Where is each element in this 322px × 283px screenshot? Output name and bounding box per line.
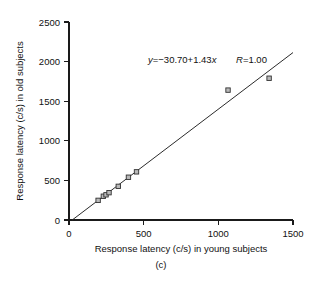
x-axis-group: 0 500 1000 1500 Response latency (c/s) i… [66, 220, 303, 254]
data-point-marker [96, 198, 100, 202]
y-axis-group: 0 500 1000 1500 2000 2500 Response laten… [14, 17, 69, 226]
y-tick-label-1500: 1500 [39, 96, 60, 107]
x-axis-title: Response latency (c/s) in young subjects [95, 243, 268, 254]
y-tick-label-500: 500 [44, 175, 60, 186]
x-tick-label-0: 0 [66, 228, 71, 239]
correlation-value: =1.00 [243, 54, 267, 65]
data-point-marker [126, 175, 130, 179]
regression-equation-annotation: y=−30.70+1.43x [147, 54, 218, 65]
scatter-plot-figure: 0 500 1000 1500 2000 2500 Response laten… [0, 0, 322, 283]
data-point-marker [226, 88, 230, 92]
x-tick-label-1500: 1500 [282, 228, 303, 239]
data-point-marker [267, 76, 271, 80]
plot-canvas: 0 500 1000 1500 2000 2500 Response laten… [0, 0, 322, 283]
y-tick-label-2000: 2000 [39, 56, 60, 67]
equation-body: =−30.70+1.43 [153, 54, 212, 65]
y-tick-label-1000: 1000 [39, 135, 60, 146]
data-point-group [96, 76, 271, 203]
x-tick-label-500: 500 [136, 228, 152, 239]
y-tick-label-0: 0 [55, 215, 60, 226]
y-tick-label-2500: 2500 [39, 17, 60, 28]
figure-caption: (c) [155, 259, 166, 270]
data-point-marker [134, 170, 138, 174]
y-axis-title: Response latency (c/s) in old subjects [14, 41, 25, 201]
annotation-group: y=−30.70+1.43x R=1.00 [147, 54, 267, 65]
data-point-marker [116, 184, 120, 188]
correlation-annotation: R=1.00 [236, 54, 267, 65]
equation-x-symbol: x [211, 54, 218, 65]
data-point-marker [107, 190, 111, 194]
x-tick-label-1000: 1000 [208, 228, 229, 239]
